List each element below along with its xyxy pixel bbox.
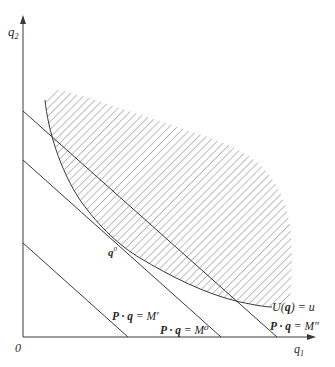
consumer-choice-diagram: q2 q1 0 q0 U(q) = u P · q = M′ P · q = M… xyxy=(0,0,335,367)
budget-label-m-zero: P · q = M⁰ xyxy=(160,324,209,337)
budget-label-m-double-prime: P · q = M″ xyxy=(270,320,319,333)
budget-label-m-prime: P · q = M′ xyxy=(112,310,159,323)
y-axis-label: q2 xyxy=(8,24,19,41)
tangent-point-label: q0 xyxy=(108,245,118,258)
origin-label: 0 xyxy=(15,341,21,355)
indifference-curve-label: U(q) = u xyxy=(272,300,315,314)
x-axis-label: q1 xyxy=(294,342,304,358)
y-axis-arrow-icon xyxy=(20,15,26,24)
x-axis-arrow-icon xyxy=(307,334,316,340)
